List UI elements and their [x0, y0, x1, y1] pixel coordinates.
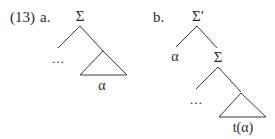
tree-a-ellipsis-leaf: … [52, 51, 65, 66]
example-number: (13) [10, 9, 35, 26]
tree-a-root-node: Σ [76, 8, 85, 24]
tree-b-triangle-label: t(α) [233, 120, 254, 136]
tree-a-triangle-label: α [98, 78, 106, 93]
subexample-label-b: b. [153, 9, 164, 25]
tree-b-left-branch [176, 26, 197, 47]
tree-b-inner-right-branch [218, 67, 241, 92]
tree-b: Σ′ α Σ … t(α) [171, 8, 266, 136]
tree-b-ellipsis-leaf: … [190, 92, 203, 107]
tree-a-triangle [80, 51, 127, 75]
tree-b-left-leaf: α [171, 49, 179, 64]
tree-a: Σ … α [52, 8, 128, 93]
tree-a-left-branch [58, 26, 80, 48]
tree-b-inner-left-branch [196, 67, 218, 89]
tree-b-triangle [219, 93, 266, 117]
tree-b-right-branch [197, 26, 217, 48]
tree-a-right-branch [80, 26, 103, 51]
syntax-tree-figure: (13) a. Σ … α b. Σ′ α Σ … t(α) [0, 0, 275, 139]
subexample-label-a: a. [40, 9, 50, 25]
tree-b-inner-node: Σ [214, 49, 223, 65]
tree-b-root-node: Σ′ [192, 8, 204, 24]
